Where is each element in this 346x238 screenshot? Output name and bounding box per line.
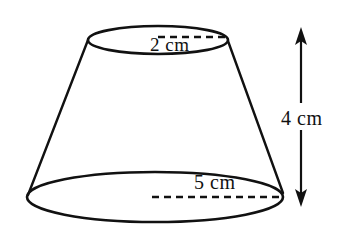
right-slant-edge [228,41,283,193]
height-label: 4 cm [280,107,323,129]
bottom-radius-label: 5 cm [194,172,235,192]
frustum-figure: 2 cm 5 cm 4 cm [0,0,346,238]
top-radius-label: 2 cm [150,35,189,54]
left-slant-edge [28,40,88,195]
